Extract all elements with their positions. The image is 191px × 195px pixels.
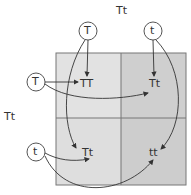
allele-top-0: T [84, 24, 91, 37]
cell-genotype-Tt-bottom-left: Tt [82, 146, 93, 159]
allele-left-1: t [33, 145, 37, 158]
allele-top-1: t [150, 24, 154, 37]
left-parent-genotype: Tt [4, 110, 15, 123]
top-parent-genotype: Tt [116, 4, 127, 17]
cell-genotype-TT: TT [80, 77, 93, 90]
allele-left-0: T [32, 75, 39, 88]
punnett-square-diagram [0, 0, 191, 195]
cell-genotype-tt: tt [149, 146, 158, 159]
cell-genotype-Tt-top-right: Tt [149, 77, 160, 90]
